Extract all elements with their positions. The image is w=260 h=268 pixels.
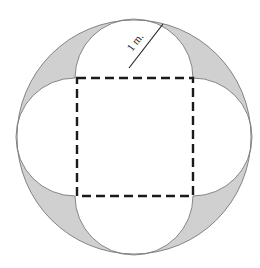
geometry-figure: 1 m. xyxy=(0,0,260,268)
